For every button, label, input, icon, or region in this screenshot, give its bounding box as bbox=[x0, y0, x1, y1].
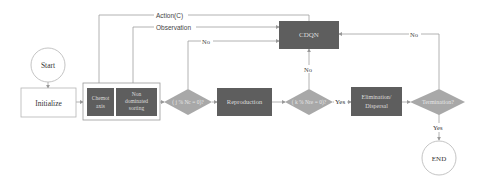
cdqn-label: CDQN bbox=[299, 31, 319, 39]
no1-label: No bbox=[202, 38, 210, 45]
non-dominated-label-2: dominated bbox=[125, 98, 148, 104]
edge-no3 bbox=[339, 34, 439, 89]
non-dominated-label-1: Non bbox=[132, 91, 142, 97]
edge-action bbox=[99, 15, 309, 88]
no3-label: No bbox=[410, 31, 418, 38]
elimination-node bbox=[351, 87, 402, 116]
reproduction-label: Reproduction bbox=[227, 98, 263, 105]
initialize-label: Initialize bbox=[35, 99, 62, 108]
edge-observation bbox=[133, 27, 279, 88]
connectors bbox=[48, 15, 439, 140]
edge-no1 bbox=[188, 41, 279, 89]
observation-label: Observation bbox=[156, 24, 191, 31]
yes2-label: Yes bbox=[335, 98, 345, 106]
chemotaxis-label-2: axis bbox=[96, 103, 105, 109]
action-label: Action(C) bbox=[156, 12, 183, 20]
no2-label: No bbox=[304, 66, 312, 73]
non-dominated-label-3: sorting bbox=[129, 105, 145, 111]
elimination-label-2: Dispersal bbox=[365, 103, 388, 109]
elimination-label-1: Elimination/ bbox=[362, 94, 392, 100]
start-label: Start bbox=[41, 61, 56, 70]
decision1-label: ( j % Nc = 0)? bbox=[172, 99, 204, 106]
end-label: END bbox=[432, 155, 446, 163]
termination-label: Termination? bbox=[422, 99, 454, 105]
decision2-label: ( k % Nre = 0)? bbox=[292, 99, 327, 106]
yes3-label: Yes bbox=[433, 124, 443, 131]
chemotaxis-node bbox=[87, 88, 114, 116]
flowchart: Start Initialize Chemot axis Non dominat… bbox=[0, 0, 489, 188]
chemotaxis-label-1: Chemot bbox=[92, 95, 110, 101]
